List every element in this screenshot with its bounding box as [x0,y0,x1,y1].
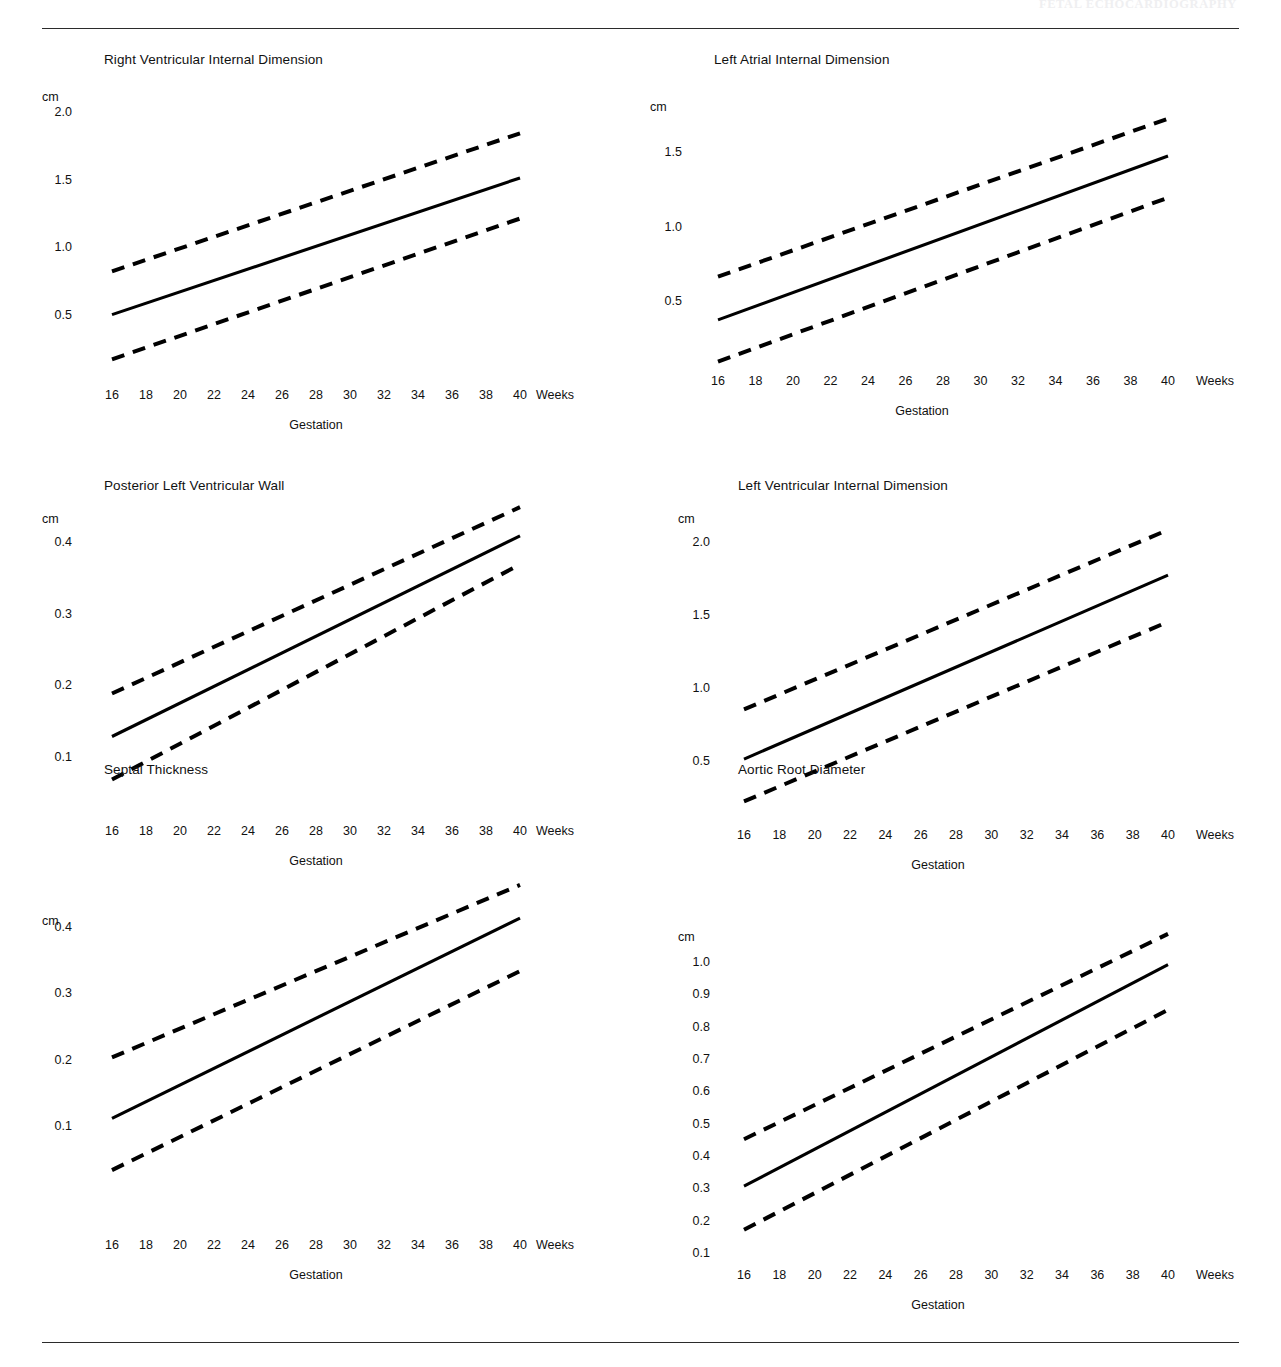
plot-area-aortic-root-diameter [0,0,1281,1367]
series-line-aortic-root-diameter-mean [744,965,1168,1186]
chart-panel-aortic-root-diameter: Aortic Root Diametercm1.00.90.80.70.60.5… [0,0,1281,1367]
series-line-aortic-root-diameter-lower-limit-2-sd [744,1010,1168,1230]
page-canvas: FETAL ECHOCARDIOGRAPHY Right Ventricular… [0,0,1281,1367]
series-line-aortic-root-diameter-upper-limit-2-sd [744,934,1168,1139]
